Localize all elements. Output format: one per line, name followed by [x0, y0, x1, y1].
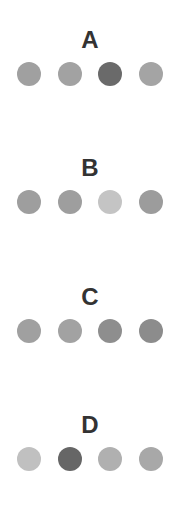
dot-medium [139, 190, 163, 214]
dot-medium [139, 62, 163, 86]
option-group-c: C [0, 285, 173, 375]
dot-dark [98, 62, 122, 86]
dot-medium-dark [98, 319, 122, 343]
dot-row [0, 62, 173, 88]
dot-medium [17, 62, 41, 86]
dot-medium [58, 62, 82, 86]
dot-dark [58, 447, 82, 471]
dot-medium [17, 190, 41, 214]
dot-medium [58, 319, 82, 343]
dot-medium-dark [139, 319, 163, 343]
dot-row [0, 447, 173, 473]
option-label: A [0, 28, 173, 52]
dot-row [0, 319, 173, 345]
option-label: D [0, 413, 173, 437]
dot-light [17, 447, 41, 471]
dot-light-medium [139, 447, 163, 471]
option-label: B [0, 156, 173, 180]
option-label: C [0, 285, 173, 309]
option-group-b: B [0, 156, 173, 246]
option-group-a: A [0, 28, 173, 118]
dot-medium [58, 190, 82, 214]
dot-light-medium [98, 447, 122, 471]
dot-light [98, 190, 122, 214]
dot-row [0, 190, 173, 216]
dot-medium [17, 319, 41, 343]
option-group-d: D [0, 413, 173, 503]
